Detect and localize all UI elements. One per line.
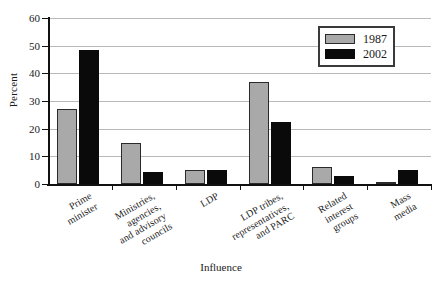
y-tick-label: 10	[0, 151, 40, 161]
x-tick-mark	[176, 186, 177, 190]
bar-2002-0	[79, 50, 99, 184]
legend-swatch-1987-icon	[325, 34, 355, 44]
x-tick-mark	[112, 186, 113, 190]
bar-1987-4	[312, 167, 332, 184]
bar-1987-3	[249, 82, 269, 184]
y-tick-label-wrap: 20	[0, 124, 40, 134]
legend-label-2002: 2002	[363, 48, 387, 60]
x-category-label: Mass media	[385, 190, 418, 222]
gridline	[48, 129, 431, 130]
y-tick-label: 20	[0, 124, 40, 134]
bar-1987-0	[57, 109, 77, 184]
bar-1987-2	[185, 170, 205, 184]
y-tick-label: 0	[0, 179, 40, 189]
bar-2002-3	[271, 122, 291, 184]
y-tick-label-wrap: 10	[0, 151, 40, 161]
y-tick-label: 60	[0, 13, 40, 23]
y-tick-label: 40	[0, 68, 40, 78]
y-axis-title: Percent	[7, 55, 19, 125]
x-tick-mark	[240, 186, 241, 190]
y-tick-label: 50	[0, 41, 40, 51]
x-tick-mark	[303, 186, 304, 190]
gridline	[48, 18, 431, 19]
y-tick-label-wrap: 50	[0, 41, 40, 51]
gridline	[48, 101, 431, 102]
bar-1987-1	[121, 143, 141, 185]
x-category-label: Ministries, agencies, and advisory counc…	[106, 190, 175, 256]
y-tick-label-wrap: 60	[0, 13, 40, 23]
y-tick-label-wrap: 0	[0, 179, 40, 189]
legend-item-2002: 2002	[325, 46, 387, 61]
y-tick-label: 30	[0, 96, 40, 106]
x-tick-mark	[431, 186, 432, 190]
legend-label-1987: 1987	[363, 33, 387, 45]
gridline	[48, 73, 431, 74]
y-axis-line	[48, 17, 50, 186]
x-category-label: Related interest groups	[316, 190, 360, 236]
x-category-label: LDP	[199, 190, 221, 210]
x-tick-mark	[367, 186, 368, 190]
legend: 1987 2002	[318, 26, 395, 67]
x-category-label: LDP tribes, representatives, and PARC	[224, 190, 297, 252]
legend-swatch-2002-icon	[325, 49, 355, 59]
bar-2002-4	[334, 176, 354, 184]
x-axis-title: Influence	[0, 261, 442, 273]
bar-2002-2	[207, 170, 227, 184]
gridline	[48, 156, 431, 157]
legend-item-1987: 1987	[325, 31, 387, 46]
bar-2002-1	[143, 172, 163, 184]
bar-2002-5	[398, 170, 418, 184]
y-tick-label-wrap: 30	[0, 96, 40, 106]
bar-chart: Percent 0102030405060 Prime ministerMini…	[0, 0, 442, 287]
x-category-label: Prime minister	[58, 190, 99, 227]
y-tick-label-wrap: 40	[0, 68, 40, 78]
